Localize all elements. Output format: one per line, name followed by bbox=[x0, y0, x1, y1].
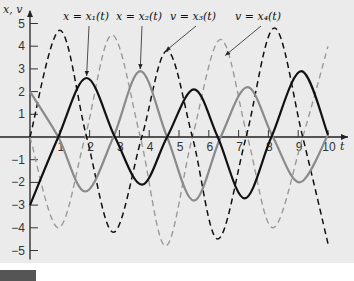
arrowhead-icon bbox=[138, 64, 142, 69]
annotation-arrow-2 bbox=[140, 26, 142, 69]
arrowhead-icon bbox=[85, 71, 89, 76]
axes: −5−4−3−2−11234512345678910 bbox=[0, 10, 348, 260]
annotation-label-4: v = x₄(t) bbox=[235, 10, 281, 23]
figure-caption bbox=[0, 270, 354, 281]
annotation-label-3: v = x₃(t) bbox=[170, 10, 216, 23]
x-axis-label: t bbox=[340, 140, 345, 153]
y-tick-label: 3 bbox=[18, 62, 25, 76]
y-tick-label: 2 bbox=[18, 85, 25, 99]
y-axis-arrow-icon bbox=[27, 10, 33, 17]
y-tick-label: −1 bbox=[11, 153, 25, 167]
y-tick-label: −5 bbox=[11, 244, 25, 258]
y-tick-label: −2 bbox=[11, 175, 25, 189]
x-tick-label: 2 bbox=[87, 140, 94, 154]
x-tick-label: 5 bbox=[177, 140, 184, 154]
line-chart: −5−4−3−2−11234512345678910 x = x₁(t)x = … bbox=[0, 0, 354, 281]
figure-number-badge bbox=[0, 270, 36, 281]
y-tick-label: 4 bbox=[18, 39, 25, 53]
y-axis-label: x, v bbox=[3, 3, 23, 16]
x-tick-label: 6 bbox=[206, 140, 213, 154]
annotation-label-1: x = x₁(t) bbox=[63, 10, 109, 23]
y-tick-label: −3 bbox=[11, 198, 25, 212]
annotation-arrow-4 bbox=[225, 26, 261, 56]
y-tick-label: 1 bbox=[18, 107, 25, 121]
annotation-layer: x = x₁(t)x = x₂(t)v = x₃(t)v = x₄(t) bbox=[63, 10, 281, 76]
annotation-arrow-3 bbox=[166, 26, 196, 51]
x-tick-label: 4 bbox=[147, 140, 154, 154]
annotation-label-2: x = x₂(t) bbox=[116, 10, 162, 23]
y-tick-label: 5 bbox=[18, 17, 25, 31]
annotation-arrow-1 bbox=[87, 26, 89, 76]
y-tick-label: −4 bbox=[11, 221, 25, 235]
